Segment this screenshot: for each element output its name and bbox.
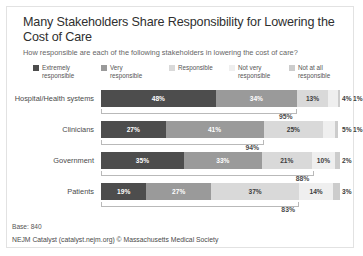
bar-segment-value: 35% — [136, 157, 149, 164]
legend-swatch-icon — [289, 65, 295, 71]
row-category-label: Government — [7, 156, 94, 165]
bar-segment[interactable] — [338, 90, 340, 107]
legend-swatch-icon — [229, 65, 235, 71]
top-box-bracket — [101, 109, 297, 114]
chart-row: Government35%33%21%10%2%88% — [7, 152, 355, 183]
bar-segment[interactable]: 13% — [297, 90, 328, 107]
chart-legend: Extremely responsibleVery responsibleRes… — [33, 64, 343, 86]
bar-segment-value: 4% — [342, 95, 352, 102]
bar-segment[interactable] — [328, 90, 338, 107]
bar-segment-value: 5% — [342, 126, 352, 133]
bar-segment[interactable]: 41% — [166, 121, 264, 138]
bar-segment[interactable]: 10% — [312, 152, 336, 169]
bar-segment-value: 1% — [353, 126, 363, 133]
bar-segment-value: 21% — [280, 157, 293, 164]
chart-row: Clinicians27%41%25%5%1%94% — [7, 121, 355, 152]
legend-item-label: Not very responsible — [238, 64, 270, 80]
bar-segment[interactable] — [333, 183, 340, 200]
legend-item-label: Extremely responsible — [42, 64, 74, 80]
row-category-label: Hospital/Health systems — [7, 94, 94, 103]
chart-row: Patients19%27%37%14%3%83% — [7, 183, 355, 214]
legend-item-label: Very responsible — [110, 64, 142, 80]
bar-segment[interactable]: 33% — [184, 152, 262, 169]
bar-segment-value: 34% — [250, 95, 263, 102]
bar-segment-value: 3% — [342, 188, 352, 195]
top-box-total: 88% — [296, 175, 310, 182]
bar-segment-value: 37% — [249, 188, 262, 195]
bar-segment[interactable]: 34% — [216, 90, 297, 107]
bar-segment-value: 48% — [152, 95, 165, 102]
base-note: Base: 840 — [12, 223, 42, 230]
stacked-bar: 19%27%37%14% — [101, 183, 340, 200]
top-box-bracket — [101, 202, 299, 207]
bar-segment-value: 27% — [172, 188, 185, 195]
bar-segment-value: 1% — [353, 95, 363, 102]
bar-segment-value: 27% — [127, 126, 140, 133]
bar-segment[interactable]: 21% — [262, 152, 312, 169]
bar-segment[interactable]: 27% — [146, 183, 211, 200]
bar-segment-value: 19% — [117, 188, 130, 195]
top-box-total: 94% — [246, 144, 260, 151]
top-box-total: 83% — [281, 206, 295, 213]
stacked-bar: 35%33%21%10% — [101, 152, 340, 169]
bar-segment-value: 2% — [342, 157, 352, 164]
bar-segment[interactable] — [323, 121, 335, 138]
stacked-bar: 27%41%25% — [101, 121, 340, 138]
legend-item[interactable]: Not at all responsible — [289, 64, 347, 80]
bar-segment[interactable]: 14% — [299, 183, 332, 200]
bar-segment[interactable]: 25% — [264, 121, 324, 138]
legend-item-label: Not at all responsible — [298, 64, 330, 80]
row-category-label: Patients — [7, 187, 94, 196]
bar-segment-value: 25% — [287, 126, 300, 133]
top-box-total: 95% — [279, 113, 293, 120]
legend-item[interactable]: Responsible — [169, 64, 227, 72]
legend-item-label: Responsible — [178, 64, 213, 72]
row-category-label: Clinicians — [7, 125, 94, 134]
source-attribution: NEJM Catalyst (catalyst.nejm.org) © Mass… — [12, 236, 218, 243]
chart-title: Many Stakeholders Share Responsibility f… — [23, 15, 341, 45]
legend-swatch-icon — [33, 65, 39, 71]
bar-segment-value: 13% — [306, 95, 319, 102]
bar-segment-value: 10% — [317, 157, 330, 164]
bar-segment[interactable]: 19% — [101, 183, 146, 200]
chart-row: Hospital/Health systems48%34%13%4%1%95% — [7, 90, 355, 121]
bar-segment[interactable]: 37% — [211, 183, 299, 200]
legend-swatch-icon — [101, 65, 107, 71]
bar-segment-value: 33% — [216, 157, 229, 164]
legend-item[interactable]: Not very responsible — [229, 64, 287, 80]
top-box-bracket — [101, 171, 314, 176]
bar-segment-value: 41% — [208, 126, 221, 133]
legend-swatch-icon — [169, 65, 175, 71]
legend-item[interactable]: Very responsible — [101, 64, 159, 80]
bar-segment[interactable]: 48% — [101, 90, 216, 107]
bar-segment[interactable]: 27% — [101, 121, 166, 138]
bar-segment-value: 14% — [309, 188, 322, 195]
chart-subtitle: How responsible are each of the followin… — [23, 48, 343, 58]
stacked-bar: 48%34%13% — [101, 90, 340, 107]
legend-item[interactable]: Extremely responsible — [33, 64, 91, 80]
chart-plot-area: Hospital/Health systems48%34%13%4%1%95%C… — [7, 90, 355, 220]
chart-card: Many Stakeholders Share Responsibility f… — [6, 6, 354, 248]
bar-segment[interactable] — [335, 121, 337, 138]
top-box-bracket — [101, 140, 264, 145]
bar-segment[interactable]: 35% — [101, 152, 184, 169]
bar-segment[interactable] — [335, 152, 340, 169]
